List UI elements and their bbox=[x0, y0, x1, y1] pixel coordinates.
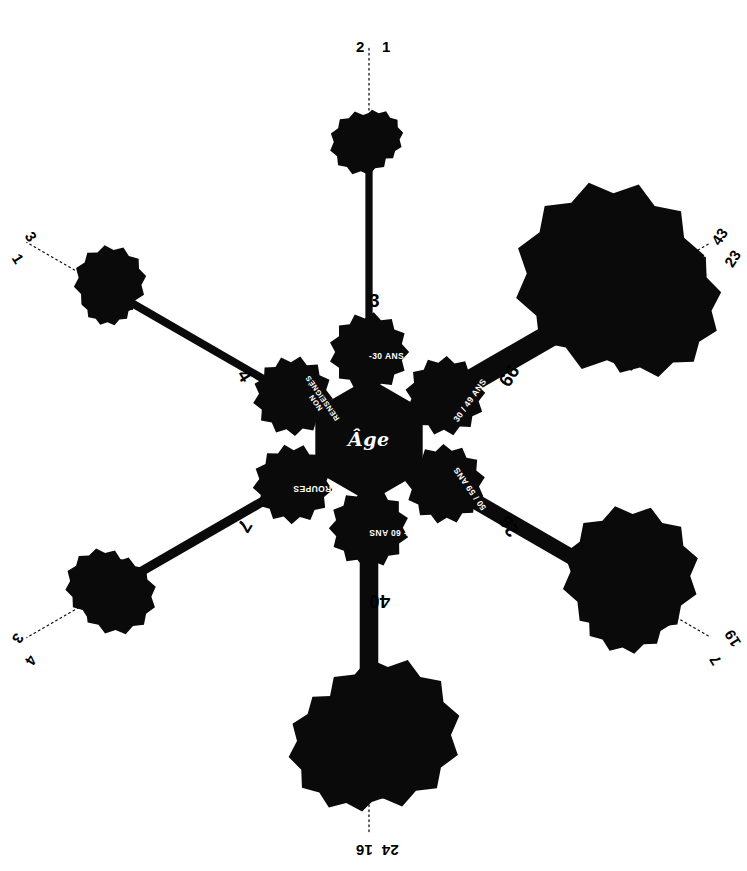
node-label-n60: + 60 ANS bbox=[369, 528, 409, 537]
node-label-n-30: -30 ANS bbox=[369, 352, 404, 361]
axis-end-value-bottom-0: 24 bbox=[382, 842, 399, 859]
node-label-line: GROUPES bbox=[293, 484, 338, 494]
diagram-canvas: Âge -30 ANS30 / 49 ANS50 / 59 ANS+ 60 AN… bbox=[0, 0, 747, 871]
axis-mid-value-bottom: 40 bbox=[369, 590, 390, 612]
node-label-line: -30 ANS bbox=[369, 351, 404, 361]
axis-end-value-bottom-1: 16 bbox=[356, 842, 373, 859]
node-label-line: + 60 ANS bbox=[369, 528, 409, 538]
node-label-ngroupes: GROUPES bbox=[293, 484, 338, 493]
hub-label: Âge bbox=[348, 428, 390, 450]
axis-end-value-top-1: 1 bbox=[382, 38, 390, 55]
axis-end-value-top-0: 2 bbox=[356, 38, 364, 55]
axis-mid-value-top: 3 bbox=[369, 290, 380, 312]
